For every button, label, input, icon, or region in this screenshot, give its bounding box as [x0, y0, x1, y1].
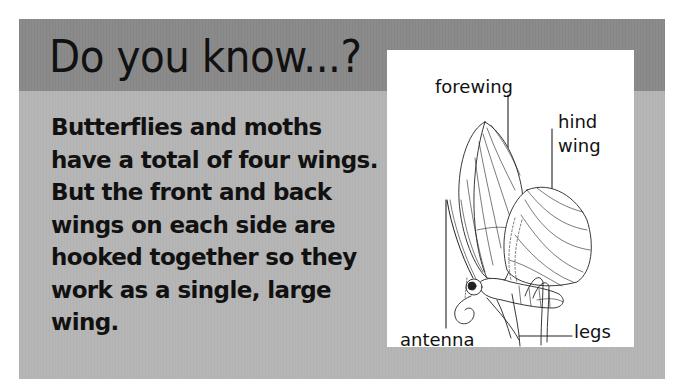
label-hind-wing-line1: hind — [558, 112, 597, 132]
label-hind-wing-line2: wing — [558, 136, 601, 156]
label-legs: legs — [574, 322, 611, 342]
do-you-know-panel: Do you know...? Butterflies and moths ha… — [19, 19, 665, 379]
label-forewing: forewing — [435, 77, 513, 97]
moth-diagram: forewing hind wing antenna legs — [387, 50, 634, 347]
fact-text: Butterflies and moths have a total of fo… — [51, 111, 381, 339]
label-antenna: antenna — [400, 330, 474, 350]
panel-title: Do you know...? — [49, 31, 361, 83]
